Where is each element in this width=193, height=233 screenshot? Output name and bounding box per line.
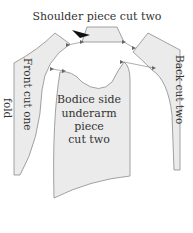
bodice-label-line3: piece <box>74 120 104 133</box>
bodice-label-line1: Bodice side <box>57 93 121 106</box>
bodice-label-line4: cut two <box>68 133 110 146</box>
pattern-diagram: Shoulder piece cut two Front cut one fol… <box>0 0 193 233</box>
shoulder-piece-title: Shoulder piece cut two <box>32 10 161 23</box>
front-piece-label: Front cut one <box>22 58 34 130</box>
shoulder-piece <box>82 27 124 42</box>
back-piece <box>133 33 180 170</box>
bodice-label-line2: underarm <box>61 107 117 120</box>
back-piece-label: Back cut two <box>174 55 186 124</box>
connector-line <box>68 42 82 45</box>
fold-label: fold <box>2 98 14 119</box>
